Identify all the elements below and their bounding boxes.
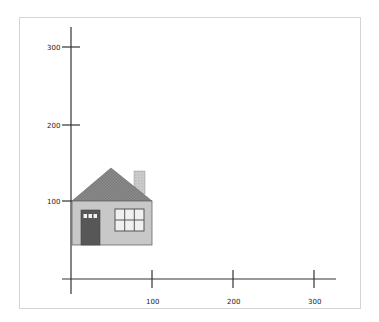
coordinate-plane: 300 200 100 100 200 300	[0, 0, 379, 322]
door-window-3	[94, 214, 98, 218]
window	[115, 209, 144, 231]
x-label-200: 200	[227, 298, 240, 306]
x-label-100: 100	[146, 298, 159, 306]
y-label-200: 200	[47, 122, 60, 130]
door-window-2	[89, 214, 93, 218]
x-label-300: 300	[308, 298, 321, 306]
door-window-1	[84, 214, 88, 218]
house	[72, 168, 152, 245]
y-label-300: 300	[47, 44, 60, 52]
y-label-100: 100	[47, 198, 60, 206]
